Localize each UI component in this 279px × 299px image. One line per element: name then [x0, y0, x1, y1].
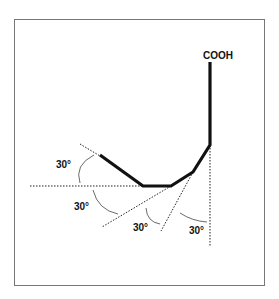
angle-label-1: 30°	[56, 159, 71, 170]
cooh-label: COOH	[203, 50, 233, 61]
fatty-acid-bend-diagram: COOH 30° 30° 30° 30°	[0, 0, 279, 299]
angle-label-2: 30°	[74, 201, 89, 212]
angle-label-3: 30°	[133, 222, 148, 233]
angle-label-4: 30°	[189, 225, 204, 236]
